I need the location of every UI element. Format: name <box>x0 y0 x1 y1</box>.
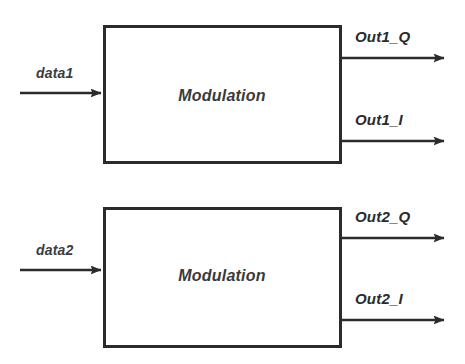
output-signal-out2-i-label: Out2_I <box>355 290 404 307</box>
modulation-block-1-group: data1 Modulation Out1_Q Out1_I <box>20 27 444 163</box>
output-signal-out2-q-label: Out2_Q <box>355 208 411 225</box>
modulation-block-2-group: data2 Modulation Out2_Q Out2_I <box>20 208 444 347</box>
input-signal-data2-label: data2 <box>36 242 74 258</box>
modulation-block-1-label: Modulation <box>178 87 265 104</box>
block-diagram: data1 Modulation Out1_Q Out1_I data2 Mod… <box>0 0 465 364</box>
input-signal-data1-label: data1 <box>36 65 74 81</box>
output-signal-out1-i-label: Out1_I <box>355 111 404 128</box>
diagram-canvas: data1 Modulation Out1_Q Out1_I data2 Mod… <box>0 0 465 364</box>
output-signal-out1-q-label: Out1_Q <box>355 28 411 45</box>
modulation-block-2-label: Modulation <box>178 267 265 284</box>
